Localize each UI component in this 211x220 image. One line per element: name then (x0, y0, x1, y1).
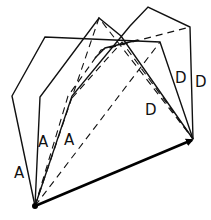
label-d3: D (195, 73, 207, 91)
label-d2: D (175, 69, 187, 87)
dashed-path-3 (35, 42, 160, 206)
dashed-path-2 (35, 27, 190, 206)
label-a3: A (64, 131, 75, 149)
path-diagram: A A A D D D (0, 0, 211, 220)
label-d1: D (145, 101, 157, 119)
origin-dot (32, 203, 38, 209)
diagram-svg: A A A D D D (0, 0, 211, 220)
label-a1: A (14, 164, 25, 182)
resultant-arrow (35, 140, 192, 206)
dashed-path-4 (72, 42, 193, 139)
label-a2: A (38, 133, 49, 151)
